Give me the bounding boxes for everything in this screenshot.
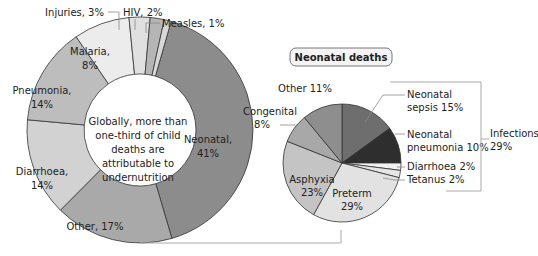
pie-label-tetanus: Tetanus 2% (406, 174, 465, 185)
label-other: Other, 17% (67, 221, 124, 232)
donut-center-text: Globally, more than one-third of child d… (89, 116, 188, 183)
chart-canvas: Globally, more than one-third of child d… (0, 0, 538, 256)
pie-label-sepsis-value: sepsis 15% (407, 102, 463, 113)
label-pneumonia: Pneumonia, (13, 85, 72, 96)
pie-label-diarrhoea: Diarrhoea 2% (407, 161, 475, 172)
label-neonatal-value: 41% (197, 148, 219, 159)
pie-label-pneumonia: Neonatal (407, 129, 452, 140)
label-diarrhoea-value: 14% (31, 180, 53, 191)
center-line-3: deaths are (111, 144, 164, 155)
label-measles: Measles, 1% (162, 18, 224, 29)
neonatal-deaths-title-box: Neonatal deaths (290, 48, 392, 66)
label-neonatal: Neonatal, (184, 134, 232, 145)
pie-label-sepsis: Neonatal (407, 89, 452, 100)
pie-label-congenital-value: 8% (254, 119, 270, 130)
pie-label-pneumonia-value: pneumonia 10% (407, 142, 489, 153)
pie-label-congenital: Congenital (243, 106, 297, 117)
center-line-4: attributable to (102, 158, 174, 169)
infections-value: 29% (490, 141, 512, 152)
label-diarrhoea: Diarrhoea, (16, 166, 68, 177)
center-line-1: Globally, more than (89, 116, 188, 127)
center-line-5: undernutrition (102, 172, 174, 183)
pie-label-asphyxia-value: 23% (301, 187, 323, 198)
label-pneumonia-value: 14% (31, 99, 53, 110)
center-line-2: one-third of child (95, 130, 180, 141)
pie-label-asphyxia: Asphyxia (289, 174, 334, 185)
pie-label-other: Other 11% (278, 83, 332, 94)
infections-label: Infections (490, 128, 538, 139)
label-hiv: HIV, 2% (123, 7, 163, 18)
pie-title: Neonatal deaths (295, 52, 388, 63)
label-malaria-value: 8% (82, 60, 98, 71)
pie-label-preterm-value: 29% (341, 201, 363, 212)
label-injuries: Injuries, 3% (45, 7, 104, 18)
label-malaria: Malaria, (70, 46, 110, 57)
pie-label-preterm: Preterm (332, 188, 372, 199)
